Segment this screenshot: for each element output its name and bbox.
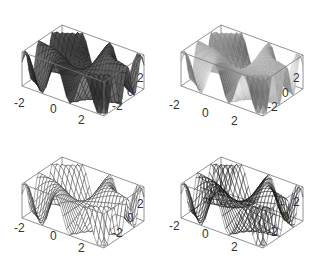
x-tick-label: -2 [14,222,25,234]
surface-plot-canvas [159,0,318,132]
x-tick-label: 0 [50,103,57,115]
y-tick-label: 0 [127,212,134,224]
surface-plot-4: -2 0 2 2 0 -2 [159,132,318,264]
y-tick-label: -2 [267,101,278,113]
y-tick-label: 0 [282,87,289,99]
x-tick-label: -2 [169,99,180,111]
x-tick-label: -2 [14,97,25,109]
x-tick-label: 2 [78,242,85,254]
x-tick-label: 2 [78,114,85,126]
y-tick-label: 2 [293,72,300,84]
surface-plot-3: -2 0 2 2 0 -2 [0,132,159,264]
x-tick-label: 0 [202,107,209,119]
surface-plot-1: -2 0 2 2 0 -2 [0,0,159,132]
x-tick-label: 2 [231,241,238,253]
y-tick-label: 2 [137,72,144,84]
x-tick-label: 0 [202,228,209,240]
surface-plot-2: -2 0 2 2 0 -2 [159,0,318,132]
x-tick-label: 2 [231,115,238,127]
y-tick-label: 0 [282,211,289,223]
y-tick-label: 0 [127,86,134,98]
y-tick-label: -2 [112,100,123,112]
x-tick-label: 0 [50,230,57,242]
y-tick-label: 2 [293,196,300,208]
x-tick-label: -2 [169,220,180,232]
y-tick-label: -2 [112,227,123,239]
y-tick-label: -2 [267,226,278,238]
y-tick-label: 2 [137,198,144,210]
